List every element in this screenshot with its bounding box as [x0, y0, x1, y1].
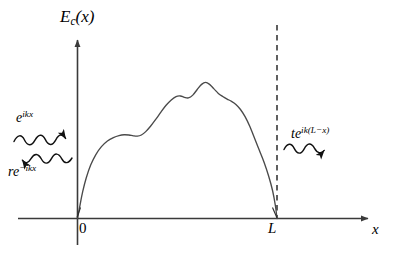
figure-canvas: Ec(x) eikx re−ikx teik(L−x) 0 L x [0, 0, 396, 261]
x-tick-label-origin: 0 [79, 221, 87, 236]
y-axis-label-base: E [60, 7, 70, 26]
reflected-wave-exponent: −ikx [19, 163, 36, 173]
y-axis-label-arg: (x) [76, 7, 95, 26]
y-axis-label: Ec(x) [60, 8, 94, 28]
incident-wave-label: eikx [16, 110, 33, 125]
incident-wave-arrow [14, 135, 66, 145]
reflected-wave-arrow [22, 154, 72, 163]
x-axis-label: x [372, 222, 379, 237]
reflected-wave-base: re [8, 164, 19, 179]
transmitted-wave-arrow [284, 144, 324, 153]
x-tick-label-L: L [268, 221, 276, 236]
diagram-svg [0, 0, 396, 261]
transmitted-wave-exponent: ik(L−x) [301, 125, 329, 135]
incident-wave-exponent: ikx [22, 109, 33, 119]
transmitted-wave-base: te [291, 126, 301, 141]
barrier-curve [78, 82, 278, 218]
transmitted-wave-label: teik(L−x) [291, 126, 329, 141]
reflected-wave-label: re−ikx [8, 164, 36, 179]
